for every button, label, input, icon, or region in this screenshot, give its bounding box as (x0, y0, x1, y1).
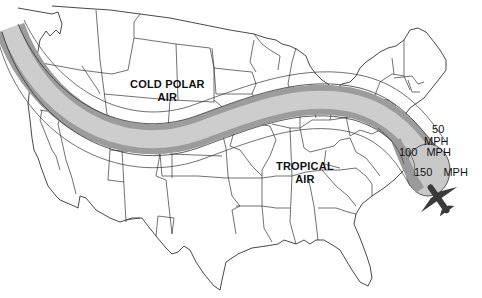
speed-100-unit: MPH (426, 146, 450, 158)
cold-air-line1: COLD POLAR (130, 78, 205, 91)
speed-label-100: 100 MPH (399, 146, 451, 158)
tropical-air-label: TROPICAL AIR (276, 160, 334, 186)
speed-label-50: 50 MPH (428, 123, 448, 147)
speed-50-value: 50 (428, 123, 448, 135)
tropical-air-line2: AIR (276, 173, 334, 186)
cold-polar-air-label: COLD POLAR AIR (130, 78, 205, 104)
speed-100-value: 100 (399, 146, 417, 158)
speed-150-value: 150 (414, 166, 432, 178)
cold-air-line2: AIR (130, 91, 205, 104)
tropical-air-line1: TROPICAL (276, 160, 334, 173)
jet-stream-band (0, 20, 450, 196)
speed-label-150: 150 MPH (414, 166, 468, 178)
speed-150-unit: MPH (443, 166, 467, 178)
